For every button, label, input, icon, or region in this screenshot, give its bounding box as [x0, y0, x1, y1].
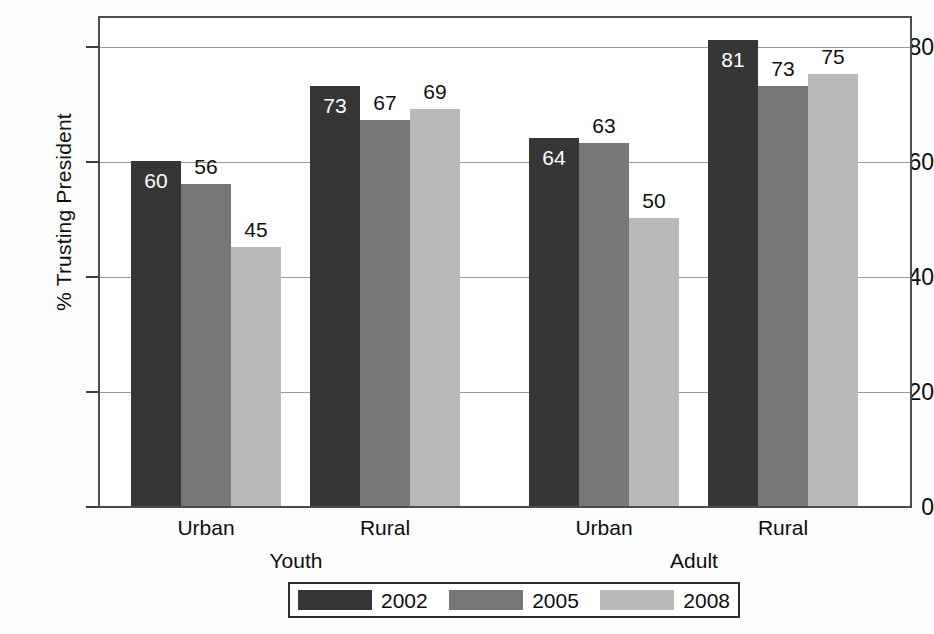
legend-label-2005: 2005 [532, 590, 579, 611]
bar-adult-rural-2008: 75 [808, 74, 858, 506]
legend-entry-2005: 2005 [449, 590, 579, 611]
bar-adult-urban-2002: 64 [529, 138, 579, 506]
x-group-label-adult: Adult [617, 549, 771, 573]
legend: 2002 2005 2008 [288, 582, 740, 618]
bar-value: 45 [231, 219, 281, 240]
bar-value: 81 [708, 49, 758, 70]
bar-value: 75 [808, 46, 858, 67]
x-sub-label-adult-rural: Rural [706, 516, 860, 540]
legend-label-2008: 2008 [683, 590, 730, 611]
bar-youth-urban-2008: 45 [231, 247, 281, 506]
legend-swatch-2008 [600, 590, 674, 610]
legend-swatch-2005 [449, 590, 523, 610]
y-axis-title: % Trusting President [52, 62, 76, 362]
x-sub-label-adult-urban: Urban [527, 516, 681, 540]
x-sub-label-youth-rural: Rural [308, 516, 462, 540]
legend-label-2002: 2002 [381, 590, 428, 611]
bar-value: 69 [410, 81, 460, 102]
bar-value: 63 [579, 115, 629, 136]
bar-youth-urban-2005: 56 [181, 184, 231, 506]
gridline-80 [100, 47, 910, 48]
chart-screenshot: % Trusting President 80 60 40 20 0 60 56 [0, 0, 934, 634]
bar-value: 73 [758, 58, 808, 79]
bar-value: 60 [131, 170, 181, 191]
bar-youth-rural-2008: 69 [410, 109, 460, 506]
bar-youth-urban-2002: 60 [131, 161, 181, 506]
x-group-label-youth: Youth [219, 549, 373, 573]
bar-value: 64 [529, 147, 579, 168]
bar-value: 50 [629, 190, 679, 211]
bar-adult-urban-2008: 50 [629, 218, 679, 506]
bar-adult-rural-2005: 73 [758, 86, 808, 506]
bar-value: 67 [360, 92, 410, 113]
bar-youth-rural-2005: 67 [360, 120, 410, 506]
legend-entry-2008: 2008 [600, 590, 730, 611]
legend-entry-2002: 2002 [298, 590, 428, 611]
plot-area: 60 56 45 73 67 69 64 63 [98, 16, 912, 508]
x-sub-label-youth-urban: Urban [129, 516, 283, 540]
bar-adult-rural-2002: 81 [708, 40, 758, 506]
legend-swatch-2002 [298, 590, 372, 610]
bar-value: 56 [181, 156, 231, 177]
bar-youth-rural-2002: 73 [310, 86, 360, 506]
bar-value: 73 [310, 95, 360, 116]
bar-adult-urban-2005: 63 [579, 143, 629, 506]
